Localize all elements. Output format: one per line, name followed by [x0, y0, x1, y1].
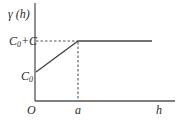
origin-label: O — [27, 104, 36, 116]
sill-tick-label: C0+C — [9, 35, 37, 49]
nugget-label-subscript: 0 — [29, 75, 33, 84]
nugget-label-base: C — [21, 69, 29, 83]
range-tick-label: a — [75, 104, 81, 116]
gamma-symbol: γ — [8, 7, 13, 21]
sill-label-rest: +C — [21, 34, 37, 48]
sill-label-base: C — [9, 34, 17, 48]
gamma-argument: (h) — [16, 7, 30, 21]
x-axis-label: h — [156, 104, 162, 116]
nugget-tick-label: C0 — [21, 70, 33, 84]
variogram-rising-segment — [36, 41, 78, 72]
y-axis-label: γ (h) — [8, 8, 30, 20]
